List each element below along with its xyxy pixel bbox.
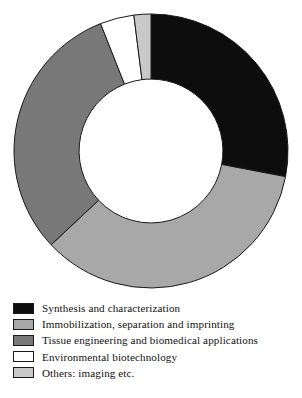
- figure-container: Synthesis and characterization: 28%Immob…: [0, 0, 302, 398]
- legend-item-label: Synthesis and characterization: [42, 302, 180, 314]
- legend-item-label: Immobilization, separation and imprintin…: [42, 318, 235, 330]
- legend-swatch-icon: [13, 367, 34, 378]
- donut-slice[interactable]: Synthesis and characterization: 28%: [151, 14, 288, 177]
- legend-item[interactable]: Environmental biotechnology: [13, 349, 298, 365]
- legend-swatch-icon: [13, 303, 34, 314]
- legend-swatch-icon: [13, 351, 34, 362]
- chart-legend: Synthesis and characterizationImmobiliza…: [13, 300, 298, 381]
- legend-item-label: Others: imaging etc.: [42, 367, 135, 379]
- legend-item[interactable]: Tissue engineering and biomedical applic…: [13, 332, 298, 348]
- legend-swatch-icon: [13, 335, 34, 346]
- legend-item-label: Environmental biotechnology: [42, 351, 177, 363]
- legend-swatch-icon: [13, 319, 34, 330]
- donut-chart-svg: Synthesis and characterization: 28%Immob…: [0, 0, 302, 300]
- legend-item-label: Tissue engineering and biomedical applic…: [42, 334, 258, 346]
- donut-chart-area: Synthesis and characterization: 28%Immob…: [0, 0, 302, 300]
- legend-item[interactable]: Immobilization, separation and imprintin…: [13, 316, 298, 332]
- donut-slices-group: Synthesis and characterization: 28%Immob…: [14, 14, 288, 288]
- legend-item[interactable]: Synthesis and characterization: [13, 300, 298, 316]
- legend-item[interactable]: Others: imaging etc.: [13, 365, 298, 381]
